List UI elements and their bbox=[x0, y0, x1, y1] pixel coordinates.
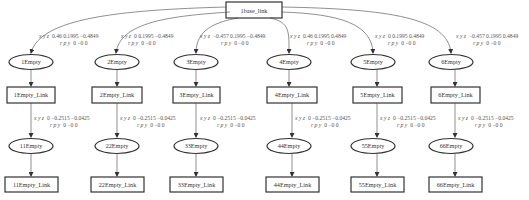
edge-label-xyz-4: x y z0.46 0.1995 0.4849 bbox=[289, 33, 347, 39]
child-edge-label-rpy-1: r p y0 −0 0 bbox=[50, 122, 78, 128]
svg-text:5Empty_Link: 5Empty_Link bbox=[360, 91, 395, 98]
edge-label-xyz-3: x y z−0.457 0.1995 −0.4849 bbox=[199, 33, 266, 39]
svg-text:22Empty_Link: 22Empty_Link bbox=[99, 181, 137, 188]
svg-text:66Empty: 66Empty bbox=[440, 142, 464, 149]
svg-text:3Empty_Link: 3Empty_Link bbox=[179, 91, 214, 98]
svg-text:33Empty_Link: 33Empty_Link bbox=[178, 181, 216, 188]
child-edge-label-rpy-3: r p y0 −0 0 bbox=[217, 122, 245, 128]
column-3: 3Empty 3Empty_Link x y z0 −0.2515 −0.042… bbox=[170, 55, 256, 193]
svg-text:4Empty_Link: 4Empty_Link bbox=[275, 91, 310, 98]
svg-text:2Empty_Link: 2Empty_Link bbox=[100, 91, 135, 98]
svg-text:4Empty: 4Empty bbox=[279, 58, 299, 65]
svg-text:55Empty: 55Empty bbox=[362, 142, 386, 149]
child-edge-label-rpy-4: r p y0 −0 0 bbox=[311, 122, 339, 128]
root-node-label: 1base_link bbox=[241, 7, 269, 14]
svg-text:5Empty: 5Empty bbox=[363, 58, 383, 65]
svg-text:66Empty_Link: 66Empty_Link bbox=[437, 181, 475, 188]
child-edge-label-xyz-2: x y z0 −0.2515 −0.0425 bbox=[119, 115, 176, 121]
svg-text:11Empty_Link: 11Empty_Link bbox=[13, 181, 51, 188]
svg-text:11Empty: 11Empty bbox=[20, 142, 43, 149]
child-edge-label-rpy-5: r p y0 −0 0 bbox=[397, 122, 425, 128]
column-6: 6Empty 6Empty_Link x y z0 −0.2515 −0.042… bbox=[429, 55, 514, 193]
svg-text:1Empty_Link: 1Empty_Link bbox=[14, 91, 49, 98]
child-edge-label-xyz-4: x y z0 −0.2515 −0.0425 bbox=[294, 115, 351, 121]
edge-label-rpy-4: r p y0 −0 0 bbox=[307, 40, 335, 46]
edge-label-xyz-5: x y z0 0.1995 0.4849 bbox=[374, 33, 425, 39]
svg-text:2Empty: 2Empty bbox=[107, 58, 127, 65]
edge-label-rpy-3: r p y0 −0 0 bbox=[221, 40, 249, 46]
child-edge-label-xyz-6: x y z0 −0.2515 −0.0425 bbox=[457, 115, 514, 121]
root-node: 1base_link bbox=[226, 2, 282, 18]
svg-text:1Empty: 1Empty bbox=[21, 58, 41, 65]
svg-text:44Empty: 44Empty bbox=[278, 142, 302, 149]
edge-label-xyz-1: x y z0.46 0.1995 −0.4849 bbox=[38, 33, 99, 39]
edge-label-rpy-5: r p y0 −0 0 bbox=[388, 40, 416, 46]
child-edge-label-rpy-2: r p y0 −0 0 bbox=[137, 122, 165, 128]
column-4: 4Empty 4Empty_Link x y z0 −0.2515 −0.042… bbox=[266, 55, 351, 193]
column-1: 1Empty 1Empty_Link x y z0 −0.2515 −0.042… bbox=[5, 55, 90, 193]
svg-text:55Empty_Link: 55Empty_Link bbox=[359, 181, 397, 188]
svg-text:6Empty: 6Empty bbox=[441, 58, 461, 65]
edge-label-rpy-1: r p y0 −0 0 bbox=[60, 40, 88, 46]
child-edge-label-xyz-5: x y z0 −0.2515 −0.0425 bbox=[379, 115, 436, 121]
svg-text:22Empty: 22Empty bbox=[106, 142, 130, 149]
edge-root-4 bbox=[270, 18, 289, 53]
column-5: 5Empty 5Empty_Link x y z0 −0.2515 −0.042… bbox=[351, 55, 436, 193]
svg-text:6Empty_Link: 6Empty_Link bbox=[438, 91, 473, 98]
edge-label-rpy-6: r p y0 −0 0 bbox=[473, 40, 501, 46]
child-edge-label-xyz-3: x y z0 −0.2515 −0.0425 bbox=[199, 115, 256, 121]
edge-label-xyz-6: x y z−0.457 0.1995 0.4849 bbox=[455, 33, 518, 39]
svg-text:3Empty: 3Empty bbox=[186, 58, 206, 65]
tf-tree-diagram: 1base_link x y z0.46 0.1995 −0.4849 r p … bbox=[0, 0, 529, 200]
edge-label-rpy-2: r p y0 −0 0 bbox=[128, 40, 156, 46]
edge-label-xyz-2: x y z0 0.1995 −0.4849 bbox=[120, 33, 174, 39]
svg-text:33Empty: 33Empty bbox=[185, 142, 209, 149]
column-2: 2Empty 2Empty_Link x y z0 −0.2515 −0.042… bbox=[91, 55, 176, 193]
child-edge-label-xyz-1: x y z0 −0.2515 −0.0425 bbox=[33, 115, 90, 121]
svg-text:44Empty_Link: 44Empty_Link bbox=[274, 181, 312, 188]
child-edge-label-rpy-6: r p y0 −0 0 bbox=[475, 122, 503, 128]
